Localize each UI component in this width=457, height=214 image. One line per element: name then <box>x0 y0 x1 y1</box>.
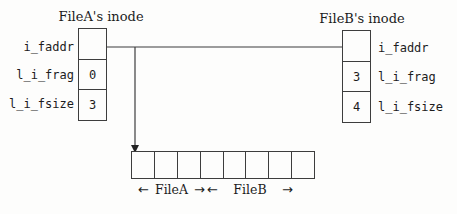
right-arrow-icon: → <box>194 183 205 197</box>
inode-b-value-l-i-frag: 3 <box>353 70 360 84</box>
inode-a-label-l-i-fsize: l_i_fsize <box>8 98 74 111</box>
fragment-cell <box>177 152 200 178</box>
span-fileb: ← FileB → <box>207 183 293 197</box>
inode-b-cell-i-faddr <box>343 31 370 61</box>
inode-a-box: 0 3 <box>78 28 107 121</box>
inode-b-label-l-i-fsize: l_i_fsize <box>378 101 443 114</box>
span-fileb-label: FileB <box>233 183 266 197</box>
inode-a-value-l-i-fsize: 3 <box>89 98 96 112</box>
inode-a-cell-l-i-fsize: 3 <box>79 89 106 120</box>
fragment-cell <box>223 152 246 178</box>
span-filea-label: FileA <box>155 183 188 197</box>
inode-a-label-l-i-frag: l_i_frag <box>8 69 74 82</box>
inode-b-cell-l-i-fsize: 4 <box>343 91 370 122</box>
inode-b-title: FileB's inode <box>307 11 417 26</box>
inode-a-cell-i-faddr <box>79 29 106 59</box>
inode-b-value-l-i-fsize: 4 <box>353 100 360 114</box>
fragment-cell <box>154 152 177 178</box>
fragment-cell <box>245 152 268 178</box>
inode-a-label-i-faddr: i_faddr <box>8 41 74 54</box>
inode-b-cell-l-i-frag: 3 <box>343 61 370 92</box>
left-arrow-icon: ← <box>207 183 218 197</box>
figure-canvas: FileA's inode FileB's inode i_faddr l_i_… <box>0 0 457 214</box>
fragment-cell <box>268 152 291 178</box>
span-filea: ← FileA → <box>138 183 205 197</box>
right-arrow-icon: → <box>282 183 293 197</box>
fragment-cell <box>200 152 223 178</box>
fragment-cell <box>132 152 154 178</box>
inode-a-value-l-i-frag: 0 <box>89 68 96 82</box>
fragment-block <box>131 151 315 179</box>
left-arrow-icon: ← <box>138 183 149 197</box>
inode-b-box: 3 4 <box>342 30 371 123</box>
inode-a-cell-l-i-frag: 0 <box>79 59 106 90</box>
inode-a-title: FileA's inode <box>46 9 156 24</box>
fragment-cell <box>291 152 314 178</box>
inode-b-label-l-i-frag: l_i_frag <box>378 71 436 84</box>
inode-b-label-i-faddr: i_faddr <box>378 42 429 55</box>
